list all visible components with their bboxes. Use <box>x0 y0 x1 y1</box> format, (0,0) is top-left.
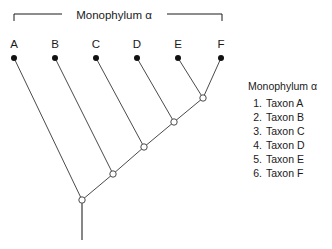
internal-node-n5 <box>200 95 206 101</box>
tip-label-b: B <box>51 38 59 50</box>
tip-dot-e <box>175 55 181 61</box>
branch-b <box>55 58 113 174</box>
tip-dot-f <box>218 55 224 61</box>
legend-item-group: 1.Taxon A2.Taxon B3.Taxon C4.Taxon D5.Ta… <box>253 97 305 179</box>
internal-branch-n3-n4 <box>144 122 174 147</box>
tip-label-d: D <box>133 38 141 50</box>
tip-label-c: C <box>92 38 100 50</box>
internal-node-n1 <box>79 197 85 203</box>
branch-f <box>203 58 221 98</box>
legend-item-number: 1. <box>253 97 262 109</box>
legend-item-number: 6. <box>253 167 262 179</box>
branch-d <box>137 58 174 122</box>
legend-item-number: 3. <box>253 125 262 137</box>
tip-label-e: E <box>174 38 182 50</box>
tip-dot-d <box>134 55 140 61</box>
legend-item-label: Taxon A <box>266 97 303 109</box>
tip-dot-a <box>11 55 17 61</box>
internal-branch-n4-n5 <box>174 98 203 122</box>
bracket-label: Monophylum α <box>76 9 152 21</box>
legend-item-label: Taxon B <box>266 111 304 123</box>
cladogram-figure: Monophylum α ABCDEF Monophylum α 1.Taxon… <box>0 0 332 249</box>
internal-node-n2 <box>110 171 116 177</box>
branch-group <box>14 58 221 200</box>
legend-item-number: 5. <box>253 153 262 165</box>
tip-label-f: F <box>217 38 224 50</box>
branch-e <box>178 58 203 98</box>
internal-node-n4 <box>171 119 177 125</box>
legend: Monophylum α 1.Taxon A2.Taxon B3.Taxon C… <box>248 80 317 179</box>
tip-dot-b <box>52 55 58 61</box>
internal-node-n3 <box>141 144 147 150</box>
legend-item-label: Taxon C <box>266 125 305 137</box>
legend-title: Monophylum α <box>248 80 317 92</box>
tip-dot-c <box>93 55 99 61</box>
internal-branch-n2-n3 <box>113 147 144 174</box>
branch-a <box>14 58 82 200</box>
legend-item-label: Taxon E <box>266 153 304 165</box>
cladogram-canvas: Monophylum α ABCDEF Monophylum α 1.Taxon… <box>0 0 332 249</box>
tip-label-a: A <box>10 38 18 50</box>
header-bracket: Monophylum α <box>14 9 222 21</box>
legend-item-label: Taxon D <box>266 139 305 151</box>
tip-label-group: ABCDEF <box>10 38 224 50</box>
legend-item-label: Taxon F <box>266 167 303 179</box>
internal-branch-n1-n2 <box>82 174 113 200</box>
legend-item-number: 4. <box>253 139 262 151</box>
branch-c <box>96 58 144 147</box>
tip-dot-group <box>11 55 224 61</box>
legend-item-number: 2. <box>253 111 262 123</box>
